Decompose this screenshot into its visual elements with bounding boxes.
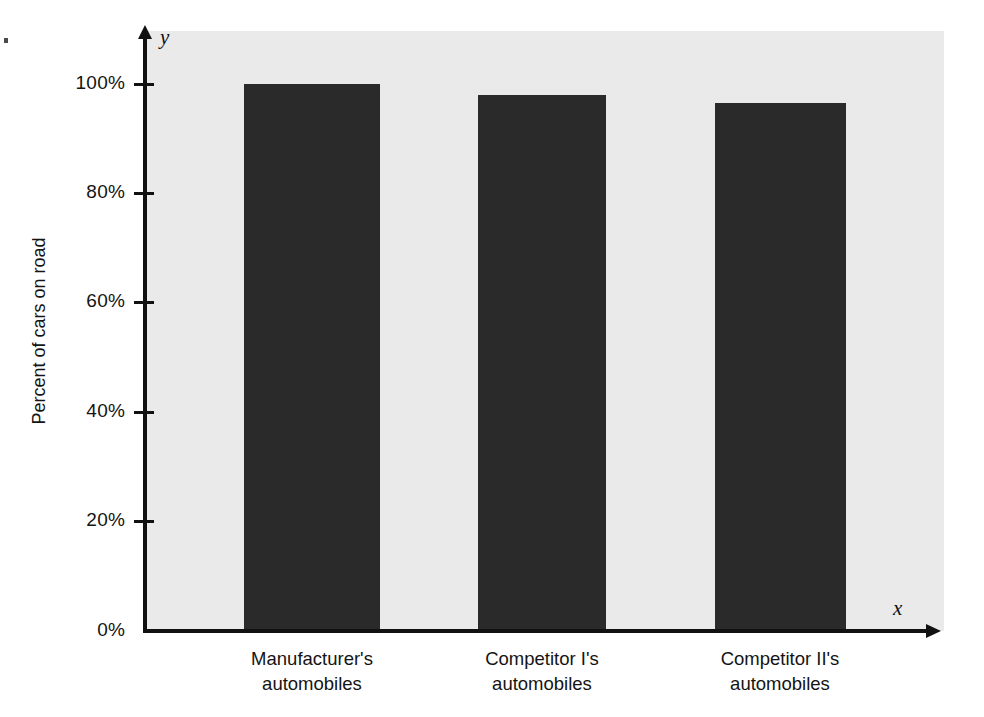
x-category-label-competitor-ii-line1: Competitor II's bbox=[721, 648, 840, 669]
x-category-label-manufacturers-line1: Manufacturer's bbox=[251, 648, 373, 669]
y-tick-mark-60 bbox=[134, 301, 154, 304]
y-axis-line bbox=[143, 36, 147, 632]
page-speck-artifact bbox=[4, 38, 8, 43]
y-tick-mark-100 bbox=[134, 83, 154, 86]
y-tick-mark-40 bbox=[134, 411, 154, 414]
x-category-label-manufacturers-line2: automobiles bbox=[192, 671, 432, 696]
x-category-label-competitor-i: Competitor I's automobiles bbox=[422, 646, 662, 696]
x-axis-line bbox=[143, 629, 928, 633]
y-axis-arrowhead-icon bbox=[138, 25, 152, 39]
x-category-label-competitor-i-line2: automobiles bbox=[422, 671, 662, 696]
x-axis-variable-label: x bbox=[893, 596, 902, 621]
x-category-label-competitor-i-line1: Competitor I's bbox=[485, 648, 599, 669]
bar-manufacturers-automobiles[interactable] bbox=[244, 84, 380, 631]
bar-chart-figure: y x 100% 80% 60% 40% 20% 0% Percent of c… bbox=[0, 0, 984, 717]
y-axis-title: Percent of cars on road bbox=[24, 31, 54, 631]
x-axis-arrowhead-icon bbox=[926, 624, 941, 638]
bar-competitor-i-automobiles[interactable] bbox=[478, 95, 606, 631]
y-tick-mark-20 bbox=[134, 520, 154, 523]
y-axis-variable-label: y bbox=[160, 25, 169, 50]
y-tick-mark-80 bbox=[134, 192, 154, 195]
x-category-label-competitor-ii-line2: automobiles bbox=[660, 671, 900, 696]
x-category-label-competitor-ii: Competitor II's automobiles bbox=[660, 646, 900, 696]
x-category-label-manufacturers: Manufacturer's automobiles bbox=[192, 646, 432, 696]
bar-competitor-ii-automobiles[interactable] bbox=[715, 103, 846, 631]
